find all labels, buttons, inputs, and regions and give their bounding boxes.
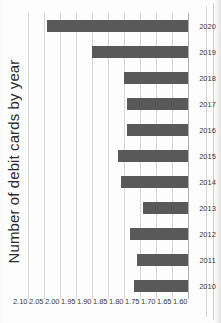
- category-axis-label: 2015: [198, 152, 218, 161]
- bar: [143, 202, 188, 214]
- category-axis-label: 2018: [198, 74, 218, 83]
- bar: [130, 228, 188, 240]
- bar: [118, 150, 188, 162]
- category-axis-label: 2017: [198, 100, 218, 109]
- value-axis-label: 1.70: [141, 297, 156, 306]
- category-axis-label: 2010: [198, 282, 218, 291]
- bar: [121, 176, 188, 188]
- bar: [127, 98, 188, 110]
- value-axis-label: 1.65: [157, 297, 172, 306]
- value-axis-label: 1.95: [61, 297, 76, 306]
- bar-series: [28, 13, 188, 299]
- category-axis-label: 2019: [198, 48, 218, 57]
- category-axis-labels: 2010201120122013201420152016201720182019…: [188, 13, 214, 299]
- bar: [137, 254, 188, 266]
- value-axis-label: 2.10: [13, 297, 28, 306]
- bar: [124, 72, 188, 84]
- category-axis-label: 2020: [198, 22, 218, 31]
- chart-stage: Number of debit cards by year 2.102.052.…: [0, 0, 221, 323]
- bar: [47, 20, 188, 32]
- value-axis-label: 1.75: [125, 297, 140, 306]
- value-axis-label: 1.85: [93, 297, 108, 306]
- scanned-chart-page: Number of debit cards by year 2.102.052.…: [0, 0, 221, 323]
- value-axis-label: 1.90: [77, 297, 92, 306]
- value-axis-label: 1.80: [109, 297, 124, 306]
- value-axis-labels: 2.102.052.001.951.901.851.801.751.701.65…: [28, 299, 188, 323]
- category-axis-label: 2011: [198, 256, 218, 265]
- value-axis-label: 2.05: [29, 297, 44, 306]
- category-axis-label: 2013: [198, 204, 218, 213]
- value-axis-label: 1.60: [173, 297, 188, 306]
- plot-area: [28, 13, 188, 299]
- bar: [92, 46, 188, 58]
- bar: [134, 280, 188, 292]
- category-axis-label: 2014: [198, 178, 218, 187]
- category-axis-label: 2012: [198, 230, 218, 239]
- bar: [127, 124, 188, 136]
- value-axis-label: 2.00: [45, 297, 60, 306]
- category-axis-label: 2016: [198, 126, 218, 135]
- chart-title: Number of debit cards by year: [0, 0, 26, 323]
